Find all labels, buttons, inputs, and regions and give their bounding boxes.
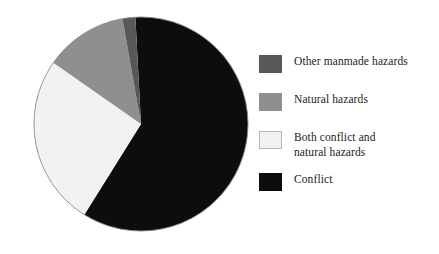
legend-item-other-manmade-hazards[interactable]: Other manmade hazards bbox=[259, 54, 439, 73]
legend-item-label: Other manmade hazards bbox=[294, 54, 408, 69]
pie-chart-plot-area bbox=[0, 0, 260, 254]
legend-swatch-icon bbox=[259, 55, 282, 73]
legend-item-label: Conflict bbox=[294, 172, 333, 187]
pie-chart-figure: Other manmade hazards Natural hazards Bo… bbox=[0, 0, 439, 254]
legend-swatch-icon bbox=[259, 131, 282, 149]
pie-svg bbox=[0, 0, 260, 254]
legend: Other manmade hazards Natural hazards Bo… bbox=[259, 54, 439, 210]
legend-swatch-icon bbox=[259, 173, 282, 191]
legend-item-label: Both conflict and natural hazards bbox=[294, 130, 376, 159]
legend-item-label: Natural hazards bbox=[294, 92, 368, 107]
pie-slices bbox=[34, 17, 248, 231]
legend-item-natural-hazards[interactable]: Natural hazards bbox=[259, 92, 439, 111]
legend-item-conflict[interactable]: Conflict bbox=[259, 172, 439, 191]
legend-swatch-icon bbox=[259, 93, 282, 111]
legend-item-both-conflict-and-natural-hazards[interactable]: Both conflict and natural hazards bbox=[259, 130, 439, 159]
